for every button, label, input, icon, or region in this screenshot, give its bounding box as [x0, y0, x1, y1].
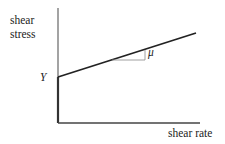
bingham-plastic-diagram: shear stress Y μ shear rate	[0, 0, 225, 144]
x-axis-label: shear rate	[168, 127, 212, 139]
slope-label: μ	[147, 46, 154, 59]
y-axis-label-line1: shear	[10, 14, 34, 26]
intercept-label: Y	[40, 71, 48, 83]
y-axis-label-line2: stress	[10, 28, 36, 40]
bingham-line	[58, 33, 196, 77]
